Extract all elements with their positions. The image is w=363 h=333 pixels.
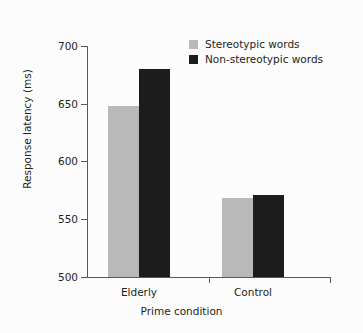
y-tick-label-650: 650 (58, 99, 78, 110)
bar-elderly-stereotypic (108, 106, 139, 277)
y-tick-label-600: 600 (58, 156, 78, 167)
y-tick-label-550: 550 (58, 214, 78, 225)
legend-label-non-stereotypic: Non-stereotypic words (205, 53, 323, 65)
plot-area (88, 46, 330, 277)
x-axis-title: Prime condition (0, 305, 363, 317)
y-axis-title: Response latency (ms) (21, 59, 33, 199)
y-tick-label-500: 500 (58, 272, 78, 283)
legend-swatch-icon (189, 40, 198, 49)
bar-elderly-non-stereotypic (139, 69, 170, 277)
y-tick-mark (81, 219, 87, 220)
y-tick-mark (81, 277, 87, 278)
y-tick-mark (81, 104, 87, 105)
legend-label-stereotypic: Stereotypic words (205, 38, 300, 50)
x-tick-mark (330, 278, 331, 283)
legend-swatch-icon (189, 55, 198, 64)
legend: Stereotypic words Non-stereotypic words (189, 37, 323, 67)
bar-control-stereotypic (222, 198, 253, 277)
x-tick-mark (209, 278, 210, 283)
y-tick-label-700: 700 (58, 41, 78, 52)
y-tick-mark (81, 161, 87, 162)
legend-entry-non-stereotypic: Non-stereotypic words (189, 52, 323, 66)
y-tick-mark (81, 46, 87, 47)
x-tick-label-elderly: Elderly (109, 286, 169, 298)
x-tick-label-control: Control (223, 286, 283, 298)
legend-entry-stereotypic: Stereotypic words (189, 37, 323, 51)
bar-control-non-stereotypic (253, 195, 284, 277)
bar-chart-figure: 700 650 600 550 500 Elderly Control Prim… (0, 0, 363, 333)
